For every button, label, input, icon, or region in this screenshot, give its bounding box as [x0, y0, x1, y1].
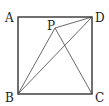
geometry-diagram: A D B C P [0, 0, 109, 106]
label-p: P [47, 19, 55, 33]
segment-pc [55, 28, 92, 94]
label-a: A [4, 11, 14, 25]
label-b: B [5, 91, 14, 105]
label-c: C [95, 91, 104, 105]
label-d: D [95, 11, 105, 25]
